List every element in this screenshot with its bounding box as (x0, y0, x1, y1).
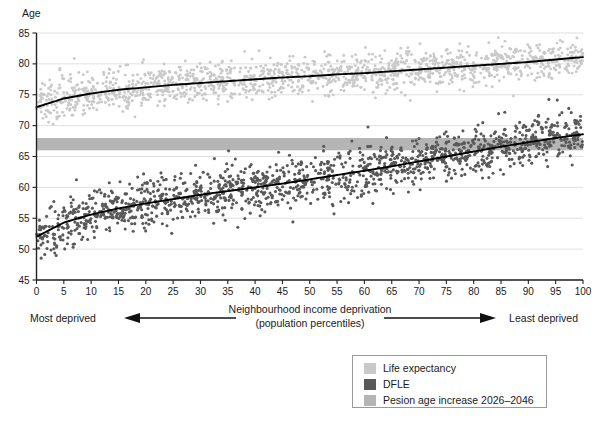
scatter-point-dfle (348, 178, 351, 181)
scatter-point-life-expectancy (466, 51, 469, 54)
scatter-point-dfle (399, 146, 402, 149)
scatter-point-life-expectancy (329, 65, 332, 68)
scatter-point-dfle (482, 134, 485, 137)
scatter-point-life-expectancy (575, 70, 578, 73)
scatter-point-dfle (433, 167, 436, 170)
scatter-point-life-expectancy (74, 101, 77, 104)
scatter-point-life-expectancy (346, 82, 349, 85)
scatter-point-life-expectancy (74, 109, 77, 112)
scatter-point-life-expectancy (328, 77, 331, 80)
scatter-point-dfle (561, 150, 564, 153)
scatter-point-dfle (144, 229, 147, 232)
scatter-point-life-expectancy (350, 78, 353, 81)
scatter-point-life-expectancy (139, 77, 142, 80)
scatter-point-dfle (209, 197, 212, 200)
scatter-point-dfle (348, 157, 351, 160)
scatter-point-life-expectancy (108, 68, 111, 71)
scatter-point-dfle (326, 160, 329, 163)
scatter-point-dfle (256, 171, 259, 174)
scatter-point-life-expectancy (115, 78, 118, 81)
scatter-point-dfle (256, 204, 259, 207)
scatter-point-dfle (61, 210, 64, 213)
scatter-point-dfle (224, 199, 227, 202)
scatter-point-dfle (567, 107, 570, 110)
scatter-point-dfle (163, 207, 166, 210)
scatter-point-dfle (510, 158, 513, 161)
scatter-point-dfle (289, 207, 292, 210)
scatter-point-dfle (146, 207, 149, 210)
scatter-point-dfle (558, 152, 561, 155)
scatter-point-dfle (254, 181, 257, 184)
scatter-point-dfle (389, 158, 392, 161)
scatter-point-life-expectancy (92, 96, 95, 99)
scatter-point-life-expectancy (429, 72, 432, 75)
scatter-point-life-expectancy (504, 53, 507, 56)
scatter-point-life-expectancy (280, 91, 283, 94)
scatter-point-life-expectancy (408, 75, 411, 78)
scatter-point-life-expectancy (426, 57, 429, 60)
scatter-point-dfle (443, 153, 446, 156)
scatter-point-life-expectancy (552, 47, 555, 50)
scatter-point-dfle (229, 195, 232, 198)
scatter-point-life-expectancy (448, 63, 451, 66)
scatter-point-dfle (474, 135, 477, 138)
scatter-point-life-expectancy (214, 91, 217, 94)
scatter-point-dfle (217, 210, 220, 213)
x-tick-label-55: 55 (332, 286, 344, 297)
scatter-point-life-expectancy (83, 112, 86, 115)
scatter-point-life-expectancy (353, 79, 356, 82)
scatter-point-life-expectancy (244, 91, 247, 94)
scatter-point-dfle (217, 184, 220, 187)
scatter-point-dfle (169, 209, 172, 212)
scatter-point-dfle (411, 139, 414, 142)
scatter-point-dfle (305, 165, 308, 168)
scatter-point-life-expectancy (189, 72, 192, 75)
scatter-point-life-expectancy (346, 70, 349, 73)
scatter-point-life-expectancy (309, 77, 312, 80)
scatter-point-life-expectancy (141, 61, 144, 64)
scatter-point-life-expectancy (74, 104, 77, 107)
scatter-point-dfle (372, 178, 375, 181)
scatter-point-life-expectancy (495, 66, 498, 69)
scatter-point-dfle (448, 152, 451, 155)
scatter-point-life-expectancy (557, 54, 560, 57)
scatter-point-life-expectancy (463, 58, 466, 61)
scatter-point-dfle (55, 246, 58, 249)
scatter-point-dfle (321, 186, 324, 189)
scatter-point-dfle (481, 121, 484, 124)
scatter-point-dfle (160, 197, 163, 200)
scatter-point-dfle (302, 174, 305, 177)
scatter-point-life-expectancy (501, 45, 504, 48)
scatter-point-dfle (459, 160, 462, 163)
scatter-point-dfle (156, 180, 159, 183)
scatter-point-life-expectancy (462, 56, 465, 59)
scatter-point-life-expectancy (141, 91, 144, 94)
scatter-point-life-expectancy (58, 83, 61, 86)
scatter-point-life-expectancy (65, 91, 68, 94)
scatter-point-life-expectancy (372, 91, 375, 94)
scatter-point-life-expectancy (348, 81, 351, 84)
scatter-point-dfle (445, 142, 448, 145)
scatter-point-life-expectancy (96, 102, 99, 105)
scatter-point-life-expectancy (301, 91, 304, 94)
scatter-point-dfle (463, 146, 466, 149)
scatter-point-dfle (450, 177, 453, 180)
scatter-point-dfle (306, 192, 309, 195)
scatter-point-dfle (133, 222, 136, 225)
scatter-point-dfle (447, 140, 450, 143)
scatter-point-dfle (492, 140, 495, 143)
scatter-point-life-expectancy (334, 80, 337, 83)
scatter-point-life-expectancy (367, 60, 370, 63)
scatter-point-dfle (317, 172, 320, 175)
scatter-point-dfle (179, 177, 182, 180)
scatter-point-life-expectancy (507, 72, 510, 75)
scatter-point-dfle (560, 144, 563, 147)
scatter-point-life-expectancy (274, 95, 277, 98)
scatter-point-dfle (349, 192, 352, 195)
scatter-point-dfle (124, 227, 127, 230)
scatter-point-dfle (513, 162, 516, 165)
scatter-point-dfle (527, 149, 530, 152)
scatter-point-life-expectancy (389, 74, 392, 77)
scatter-point-life-expectancy (301, 86, 304, 89)
scatter-point-dfle (55, 254, 58, 257)
